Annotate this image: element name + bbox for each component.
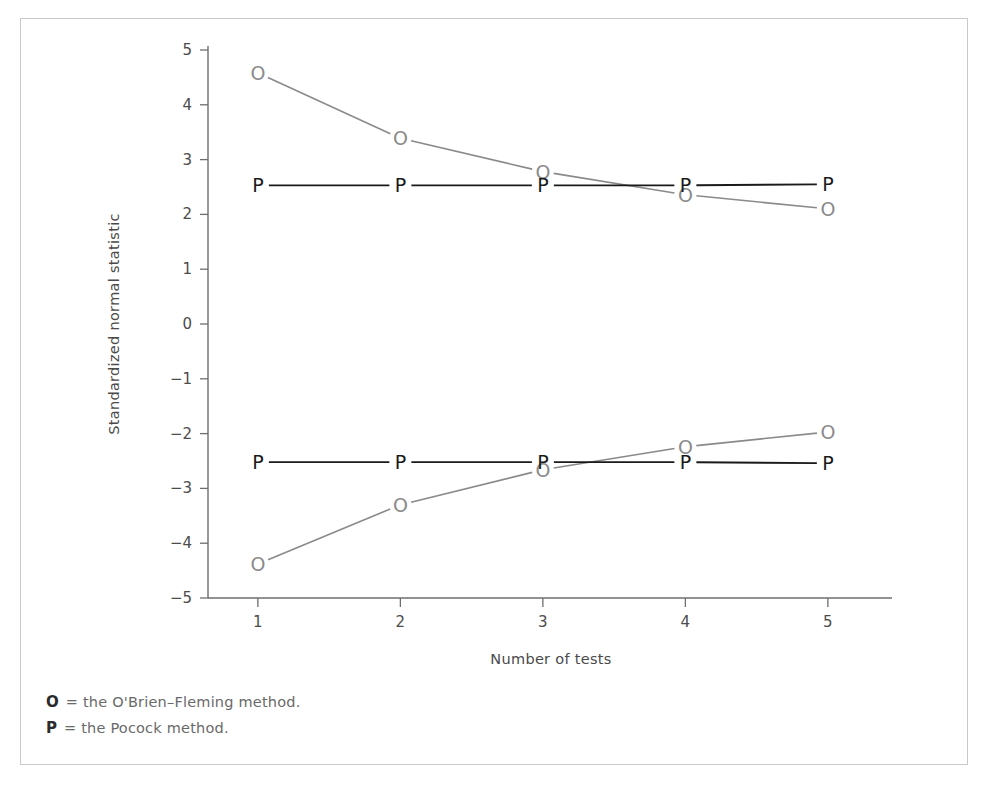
y-axis-tick-label: 4 xyxy=(182,96,192,114)
data-point-marker-p: P xyxy=(822,173,833,195)
data-point-marker-p: P xyxy=(252,451,263,473)
y-axis-tick-label: −4 xyxy=(170,534,192,552)
data-point-marker-o: O xyxy=(820,421,835,443)
y-axis-title: Standardized normal statistic xyxy=(106,213,122,435)
data-point-marker-p: P xyxy=(252,174,263,196)
x-axis-title: Number of tests xyxy=(490,651,611,667)
series-segment xyxy=(411,472,532,502)
x-axis-tick-label: 4 xyxy=(681,613,691,631)
data-point-marker-p: P xyxy=(395,174,406,196)
series-segment xyxy=(268,509,390,560)
data-point-marker-p: P xyxy=(395,451,406,473)
x-axis-tick-label: 1 xyxy=(253,613,263,631)
data-point-marker-o: O xyxy=(250,553,265,575)
legend: O = the O'Brien–Fleming method. P = the … xyxy=(46,690,546,742)
series-segment xyxy=(268,78,390,134)
data-point-marker-p: P xyxy=(680,174,691,196)
data-point-marker-p: P xyxy=(680,451,691,473)
figure-container: −5−4−3−2−101234512345 OOOOOOOOOOPPPPPPPP… xyxy=(0,0,989,785)
y-axis-tick-label: −5 xyxy=(170,589,192,607)
series-P: PPPPP xyxy=(252,451,833,474)
series-O: OOOOO xyxy=(250,421,835,575)
y-axis-tick-label: 2 xyxy=(182,205,192,223)
y-axis-tick-label: 5 xyxy=(182,41,192,59)
legend-row-pocock: P = the Pocock method. xyxy=(46,716,546,740)
y-axis-tick-label: 0 xyxy=(182,315,192,333)
x-axis-tick-label: 5 xyxy=(823,613,833,631)
legend-text-p: = the Pocock method. xyxy=(64,720,229,736)
series-segment xyxy=(554,449,675,469)
data-point-marker-o: O xyxy=(393,127,408,149)
axes-group: −5−4−3−2−101234512345 xyxy=(170,41,892,631)
series-segment xyxy=(696,462,817,463)
series-segment xyxy=(696,196,817,208)
data-point-marker-o: O xyxy=(393,494,408,516)
y-axis-tick-label: −1 xyxy=(170,370,192,388)
series-segment xyxy=(696,433,817,446)
data-point-marker-o: O xyxy=(250,62,265,84)
chart-plot-area: −5−4−3−2−101234512345 OOOOOOOOOOPPPPPPPP… xyxy=(0,0,989,785)
legend-text-o: = the O'Brien–Fleming method. xyxy=(66,694,301,710)
legend-key-p: P xyxy=(46,719,57,737)
legend-row-obrien-fleming: O = the O'Brien–Fleming method. xyxy=(46,690,546,714)
legend-key-o: O xyxy=(46,693,59,711)
data-point-marker-p: P xyxy=(822,452,833,474)
data-point-marker-p: P xyxy=(537,451,548,473)
series-group: OOOOOOOOOOPPPPPPPPPP xyxy=(250,62,835,575)
y-axis-tick-label: −2 xyxy=(170,425,192,443)
data-point-marker-p: P xyxy=(537,174,548,196)
series-P: PPPPP xyxy=(252,173,833,196)
y-axis-tick-label: 3 xyxy=(182,151,192,169)
data-point-marker-o: O xyxy=(820,198,835,220)
y-axis-tick-label: 1 xyxy=(182,260,192,278)
series-segment xyxy=(554,173,675,193)
x-axis-tick-label: 2 xyxy=(396,613,406,631)
y-axis-tick-label: −3 xyxy=(170,479,192,497)
series-segment xyxy=(411,141,532,169)
x-axis-tick-label: 3 xyxy=(538,613,548,631)
series-segment xyxy=(696,184,817,185)
